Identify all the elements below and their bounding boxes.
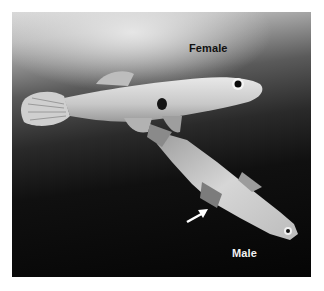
male-fish: [147, 124, 298, 240]
male-label: Male: [232, 247, 257, 259]
arrow-icon: [187, 209, 208, 222]
fish-photo: Female Male: [12, 12, 311, 277]
female-fish: [21, 71, 262, 132]
female-label: Female: [189, 42, 228, 54]
fish-illustration: [12, 12, 311, 277]
